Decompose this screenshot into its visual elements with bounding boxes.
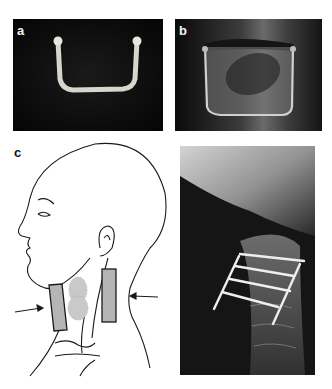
panel-label-b: b xyxy=(179,24,187,37)
panel-c-neck-drawing: c xyxy=(0,138,172,383)
panel-label-a: a xyxy=(17,24,24,37)
spine-xray-icon xyxy=(180,146,315,375)
panel-label-c: c xyxy=(14,146,21,159)
vertebra-implant-icon xyxy=(175,19,322,131)
panel-b-implant-radiograph: b xyxy=(175,19,322,131)
panel-d-cervical-xray xyxy=(180,146,315,375)
u-staple-icon xyxy=(13,19,163,131)
panel-a-implant-photo: a xyxy=(13,19,163,131)
head-profile-icon xyxy=(0,138,172,383)
